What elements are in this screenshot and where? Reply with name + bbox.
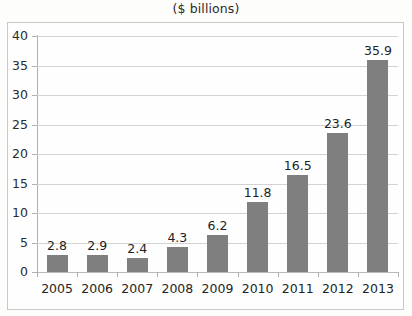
x-tick-mark-2005 bbox=[77, 272, 78, 277]
y-tick-label-15: 15 bbox=[2, 176, 28, 191]
x-tick-mark-2012 bbox=[358, 272, 359, 277]
x-tick-mark-2008 bbox=[197, 272, 198, 277]
x-tick-mark-2010 bbox=[278, 272, 279, 277]
x-tick-mark-2013 bbox=[398, 272, 399, 277]
y-tick-label-0: 0 bbox=[2, 264, 28, 279]
bar-2013 bbox=[367, 60, 388, 272]
bar-value-label-2011: 16.5 bbox=[273, 158, 323, 173]
bar-2009 bbox=[207, 235, 228, 272]
y-tick-label-5: 5 bbox=[2, 235, 28, 250]
bar-2005 bbox=[47, 255, 68, 272]
chart-title: ($ billions) bbox=[0, 1, 412, 16]
x-tick-mark-2011 bbox=[318, 272, 319, 277]
x-axis-label-2013: 2013 bbox=[353, 281, 403, 296]
gridline-0 bbox=[37, 272, 398, 273]
bar-2007 bbox=[127, 258, 148, 272]
plot-area bbox=[37, 36, 398, 272]
y-tick-label-35: 35 bbox=[2, 58, 28, 73]
x-tick-mark-2007 bbox=[157, 272, 158, 277]
bar-value-label-2009: 6.2 bbox=[193, 218, 243, 233]
bar-2010 bbox=[247, 202, 268, 272]
bar-value-label-2010: 11.8 bbox=[233, 185, 283, 200]
bar-2008 bbox=[167, 247, 188, 272]
gridline-35 bbox=[37, 66, 398, 67]
y-tick-label-20: 20 bbox=[2, 146, 28, 161]
bar-2012 bbox=[327, 133, 348, 272]
x-tick-mark-2009 bbox=[238, 272, 239, 277]
gridline-30 bbox=[37, 95, 398, 96]
y-tick-label-10: 10 bbox=[2, 205, 28, 220]
x-tick-mark-2006 bbox=[117, 272, 118, 277]
bar-2006 bbox=[87, 255, 108, 272]
x-tick-mark-origin bbox=[37, 272, 38, 277]
y-tick-label-30: 30 bbox=[2, 87, 28, 102]
bar-value-label-2013: 35.9 bbox=[353, 43, 403, 58]
bar-value-label-2012: 23.6 bbox=[313, 116, 363, 131]
gridline-40 bbox=[37, 36, 398, 37]
bar-2011 bbox=[287, 175, 308, 272]
y-tick-label-25: 25 bbox=[2, 117, 28, 132]
bar-chart-figure: ($ billions) 0510152025303540 2.820052.9… bbox=[0, 0, 412, 316]
y-tick-label-40: 40 bbox=[2, 28, 28, 43]
